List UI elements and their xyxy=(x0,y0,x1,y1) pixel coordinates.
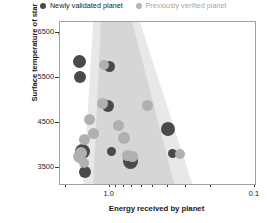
x-axis-title: Energy received by planet xyxy=(59,204,254,213)
legend-item-new-planet: Newly validated planet xyxy=(40,2,123,9)
scatter-point xyxy=(99,60,109,70)
scatter-point xyxy=(175,149,185,159)
filled-circle-icon xyxy=(136,3,142,9)
y-tick-label: 3500 xyxy=(38,163,54,170)
habitable-zone-bands xyxy=(60,22,255,184)
y-tick-label: 4500 xyxy=(38,118,54,125)
scatter-point xyxy=(73,55,86,68)
plot-area xyxy=(59,21,256,185)
filled-circle-icon xyxy=(40,3,46,9)
scatter-point xyxy=(113,120,124,131)
y-tick-label: 5500 xyxy=(38,73,54,80)
scatter-point xyxy=(107,147,116,156)
chart-legend: Newly validated planet Previously verifi… xyxy=(0,2,267,9)
legend-item-verified-planet: Previously verified planet xyxy=(136,2,227,9)
scatter-point xyxy=(74,71,86,83)
scatter-point xyxy=(127,151,138,162)
scatter-point xyxy=(118,132,130,144)
y-axis-title: Surface temperature of star xyxy=(30,0,39,113)
legend-label-new-planet: Newly validated planet xyxy=(50,2,123,9)
scatter-point xyxy=(142,100,153,111)
scatter-point xyxy=(161,122,175,136)
scatter-point xyxy=(84,114,95,125)
scatter-point xyxy=(79,134,90,145)
legend-label-verified-planet: Previously verified planet xyxy=(145,2,226,9)
chart-root: Newly validated planet Previously verifi… xyxy=(0,0,267,223)
x-tick-label: 1.0 xyxy=(95,190,123,197)
x-tick-label: 0.1 xyxy=(240,190,267,197)
